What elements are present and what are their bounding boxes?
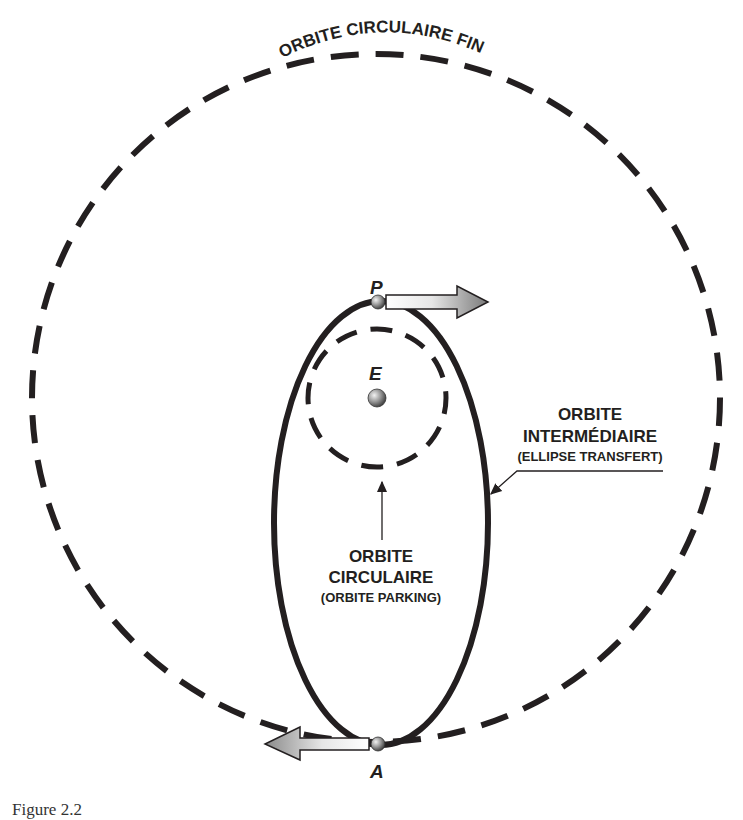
point-e-label: E [369,363,383,384]
final-orbit-label: ORBITE CIRCULAIRE FINALE [0,0,487,62]
parking-orbit-label-line2: CIRCULAIRE [329,568,434,587]
parking-orbit-sublabel: (ORBITE PARKING) [321,590,441,605]
earth-icon [368,389,386,407]
velocity-arrow-p [386,286,488,318]
satellite-at-a-icon [371,737,385,751]
figure-caption: Figure 2.2 [12,800,82,820]
intermediate-orbit-label-line1: ORBITE [558,405,622,424]
intermediate-orbit-label-line2: INTERMÉDIAIRE [523,427,657,446]
point-p-label: P [370,277,383,298]
parking-orbit-label-line1: ORBITE [349,547,413,566]
point-a-label: A [369,761,384,782]
velocity-arrow-a [265,727,369,760]
intermediate-orbit-sublabel: (ELLIPSE TRANSFERT) [517,449,662,464]
intermediate-orbit-pointer [491,471,663,494]
